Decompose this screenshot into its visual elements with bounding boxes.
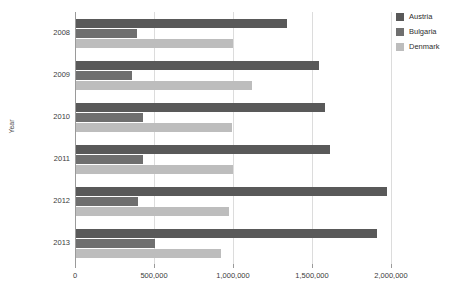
bar-denmark-2009[interactable] <box>76 81 252 90</box>
bar-bulgaria-2008[interactable] <box>76 29 137 38</box>
bar-bulgaria-2011[interactable] <box>76 155 143 164</box>
bar-austria-2013[interactable] <box>76 229 377 238</box>
gridline <box>391 12 392 264</box>
gridline <box>154 12 155 264</box>
legend-label-austria: Austria <box>409 12 432 21</box>
x-tick-mark <box>75 264 76 268</box>
bar-chart: Year 0500,0001,000,0001,500,0002,000,000… <box>0 0 464 284</box>
chart-title-clipped <box>75 0 285 7</box>
y-category-label-2010: 2010 <box>30 112 70 121</box>
bar-austria-2008[interactable] <box>76 19 287 28</box>
bar-group <box>76 145 392 174</box>
legend-swatch-denmark <box>396 43 404 51</box>
legend-item-bulgaria[interactable]: Bulgaria <box>396 25 462 38</box>
x-tick-mark <box>233 264 234 268</box>
bar-group <box>76 229 392 258</box>
bar-bulgaria-2009[interactable] <box>76 71 132 80</box>
y-category-label-2011: 2011 <box>30 154 70 163</box>
x-tick-label: 0 <box>73 271 77 280</box>
legend-swatch-bulgaria <box>396 28 404 36</box>
plot-area: 0500,0001,000,0001,500,0002,000,000 <box>75 12 392 264</box>
gridline <box>233 12 234 264</box>
bar-group <box>76 187 392 216</box>
y-category-label-2008: 2008 <box>30 28 70 37</box>
bar-austria-2011[interactable] <box>76 145 330 154</box>
legend-label-denmark: Denmark <box>409 42 439 51</box>
legend: Austria Bulgaria Denmark <box>396 10 462 55</box>
bar-group <box>76 19 392 48</box>
x-tick-label: 2,000,000 <box>374 271 407 280</box>
bar-denmark-2013[interactable] <box>76 249 221 258</box>
bar-bulgaria-2010[interactable] <box>76 113 143 122</box>
bar-bulgaria-2012[interactable] <box>76 197 138 206</box>
x-tick-mark <box>154 264 155 268</box>
x-tick-label: 500,000 <box>140 271 167 280</box>
y-category-label-2013: 2013 <box>30 238 70 247</box>
bar-bulgaria-2013[interactable] <box>76 239 155 248</box>
bar-denmark-2012[interactable] <box>76 207 229 216</box>
x-tick-mark <box>312 264 313 268</box>
bar-denmark-2008[interactable] <box>76 39 233 48</box>
bar-group <box>76 61 392 90</box>
x-tick-label: 1,500,000 <box>295 271 328 280</box>
bar-denmark-2010[interactable] <box>76 123 232 132</box>
y-category-label-2012: 2012 <box>30 196 70 205</box>
bar-denmark-2011[interactable] <box>76 165 233 174</box>
x-tick-mark <box>391 264 392 268</box>
x-tick-label: 1,000,000 <box>216 271 249 280</box>
gridline <box>312 12 313 264</box>
y-category-label-2009: 2009 <box>30 70 70 79</box>
bar-austria-2010[interactable] <box>76 103 325 112</box>
legend-item-austria[interactable]: Austria <box>396 10 462 23</box>
legend-swatch-austria <box>396 13 404 21</box>
legend-label-bulgaria: Bulgaria <box>409 27 437 36</box>
y-axis-line <box>75 12 76 264</box>
bar-austria-2012[interactable] <box>76 187 387 196</box>
legend-item-denmark[interactable]: Denmark <box>396 40 462 53</box>
bar-austria-2009[interactable] <box>76 61 319 70</box>
bar-group <box>76 103 392 132</box>
y-axis-title: Year <box>8 107 15 147</box>
